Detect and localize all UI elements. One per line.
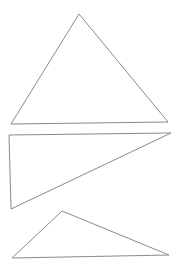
canvas-background — [0, 0, 182, 274]
diagram-canvas — [0, 0, 182, 274]
shapes-svg — [0, 0, 182, 274]
